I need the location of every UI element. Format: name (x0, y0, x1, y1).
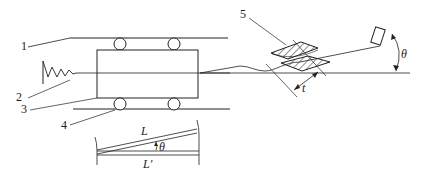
diagram-canvas: 5 t θ 1 2 3 4 L θ L' (0, 0, 423, 181)
angle-arc (391, 34, 399, 71)
label-theta: θ (401, 47, 407, 61)
label-L-prime: L' (142, 157, 153, 171)
bottom-roller-left (114, 98, 126, 110)
top-roller-left (114, 38, 126, 50)
spring (43, 61, 76, 84)
leader-3 (30, 98, 97, 110)
label-5: 5 (240, 7, 246, 21)
leader-2 (28, 80, 70, 98)
carriage-block (97, 50, 198, 98)
label-t: t (302, 81, 306, 95)
label-3: 3 (21, 102, 27, 116)
top-rail (28, 38, 228, 47)
label-inset-theta: θ (159, 140, 165, 154)
leader-4 (70, 110, 115, 125)
leader-5 (249, 18, 286, 45)
label-4: 4 (61, 118, 67, 132)
label-1: 1 (21, 39, 27, 53)
label-L: L (140, 124, 148, 138)
bottom-roller-right (168, 98, 180, 110)
end-sensor (371, 27, 385, 45)
top-roller-right (168, 38, 180, 50)
